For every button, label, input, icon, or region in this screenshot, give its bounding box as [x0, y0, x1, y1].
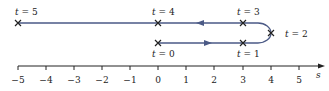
axis-label-s: s [316, 70, 321, 80]
label-t2: t = 2 [285, 29, 308, 39]
motion-path [18, 23, 271, 43]
svg-text:2: 2 [211, 75, 217, 85]
svg-text:0: 0 [155, 75, 161, 85]
motion-diagram: t = 0 t = 1 t = 2 t = 3 t = 4 t = 5 −5 −… [0, 0, 329, 91]
arrow-left-icon [196, 20, 204, 26]
label-t1: t = 1 [237, 49, 260, 59]
point-markers [15, 20, 274, 46]
svg-text:−2: −2 [95, 75, 108, 85]
label-t5: t = 5 [15, 7, 38, 17]
svg-text:−3: −3 [67, 75, 81, 85]
axis-tick-labels: −5 −4 −3 −2 −1 0 1 2 3 4 5 [11, 75, 302, 85]
svg-text:−4: −4 [39, 75, 53, 85]
label-t3: t = 3 [237, 7, 260, 17]
svg-text:4: 4 [268, 75, 274, 85]
axis-arrow-icon [318, 64, 325, 69]
label-t4: t = 4 [152, 7, 175, 17]
arrow-right-icon [204, 40, 212, 46]
svg-text:3: 3 [240, 75, 246, 85]
svg-text:−1: −1 [123, 75, 136, 85]
svg-text:5: 5 [296, 75, 302, 85]
svg-text:−5: −5 [11, 75, 25, 85]
svg-text:1: 1 [183, 75, 189, 85]
label-t0: t = 0 [152, 49, 175, 59]
s-axis [18, 66, 320, 70]
